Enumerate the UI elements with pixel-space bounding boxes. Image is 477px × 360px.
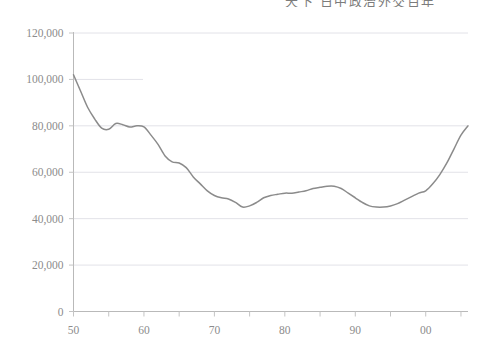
y-tick-label: 0 — [58, 306, 64, 318]
x-tick-label: 70 — [209, 324, 221, 336]
data-series-group — [74, 75, 469, 207]
x-tick-label: 80 — [279, 324, 291, 336]
y-tick-label: 20,000 — [32, 259, 64, 272]
tick-marks-group — [69, 33, 461, 317]
y-tick-label: 40,000 — [32, 213, 64, 226]
y-tick-label: 100,000 — [26, 73, 64, 86]
x-tick-label: 50 — [68, 324, 80, 336]
x-tick-label: 00 — [420, 324, 432, 336]
line-chart: 天下 日中政治外交百年 020,00040,00060,00080,000100… — [0, 0, 477, 360]
y-tick-label: 120,000 — [26, 27, 64, 40]
x-axis-tick-labels: 506070809000 — [68, 324, 432, 336]
y-tick-label: 60,000 — [32, 166, 64, 179]
y-tick-label: 80,000 — [32, 120, 64, 133]
x-tick-label: 90 — [350, 324, 362, 336]
x-tick-label: 60 — [138, 324, 150, 336]
chart-canvas: 020,00040,00060,00080,000100,000120,000 … — [0, 0, 477, 360]
gridline-mask — [143, 78, 470, 81]
y-axis-tick-labels: 020,00040,00060,00080,000100,000120,000 — [26, 27, 64, 318]
data-line-series-1 — [74, 75, 469, 207]
gridlines-group — [74, 33, 471, 265]
